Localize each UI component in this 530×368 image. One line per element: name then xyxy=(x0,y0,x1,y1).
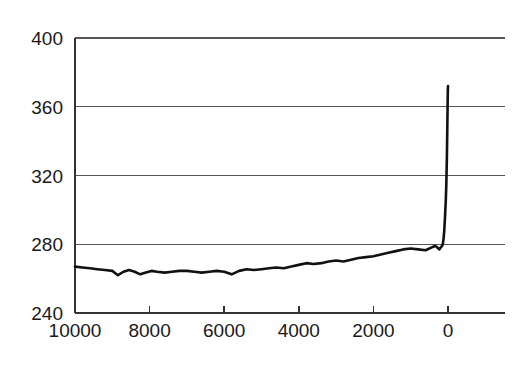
data-series-group xyxy=(75,86,448,275)
data-line-co2-concentration xyxy=(75,86,448,275)
y-axis-tick-labels-group: 240280320360400 xyxy=(31,28,63,324)
x-tick-label-4000: 4000 xyxy=(278,320,320,341)
x-axis-tick-labels-group: 1000080006000400020000 xyxy=(49,320,454,341)
x-tick-label-8000: 8000 xyxy=(128,320,170,341)
y-tick-label-360: 360 xyxy=(31,97,63,118)
co2-concentration-chart: 240280320360400 1000080006000400020000 xyxy=(0,0,530,368)
y-tick-label-320: 320 xyxy=(31,166,63,187)
y-tick-label-400: 400 xyxy=(31,28,63,49)
gridlines-group xyxy=(75,38,505,244)
y-tick-label-280: 280 xyxy=(31,234,63,255)
x-tick-label-2000: 2000 xyxy=(352,320,394,341)
chart-canvas: 240280320360400 1000080006000400020000 xyxy=(0,0,530,368)
x-tick-label-6000: 6000 xyxy=(203,320,245,341)
x-tick-label-10000: 10000 xyxy=(49,320,102,341)
x-tick-label-0: 0 xyxy=(443,320,454,341)
x-axis-ticks-group xyxy=(150,306,448,313)
